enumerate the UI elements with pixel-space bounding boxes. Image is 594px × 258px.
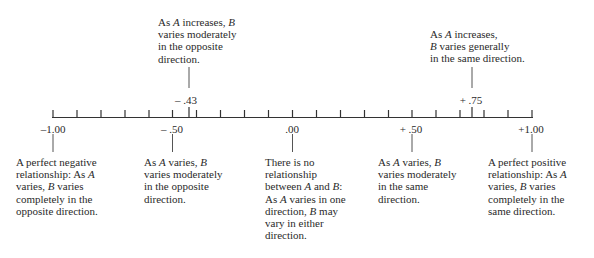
tick-label-p100: +1.00 <box>518 123 543 135</box>
annotation-line: As A increases, B <box>158 16 237 28</box>
annotation-line: There is no <box>265 156 346 168</box>
annotation-line: A perfect positive <box>488 156 567 168</box>
annotation-line: completely in the <box>488 193 567 205</box>
tick-label-z00: .00 <box>285 123 299 135</box>
annotation-line: between A and B: <box>265 180 346 192</box>
annotation-neg43-text: As A increases, Bvaries moderatelyin the… <box>158 16 237 65</box>
tick-label-m100: –1.00 <box>41 123 66 135</box>
annotation-line: varies moderately <box>144 168 223 180</box>
annotation-line: As A varies, B <box>144 156 223 168</box>
annotation-line: As A varies, B <box>378 156 457 168</box>
marker-label-pos75: + .75 <box>460 94 483 106</box>
annotation-p100-text: A perfect positiverelationship: As Avari… <box>488 156 567 217</box>
annotation-line: A perfect negative <box>16 156 98 168</box>
annotation-line: B varies generally <box>430 40 525 52</box>
annotation-line: opposite direction. <box>16 205 98 217</box>
annotation-line: same direction. <box>488 205 567 217</box>
tick-label-p50: + .50 <box>400 123 423 135</box>
annotation-z00-text: There is norelationshipbetween A and B:A… <box>265 156 346 241</box>
annotation-line: varies, B varies <box>16 180 98 192</box>
axis-ticks <box>53 110 532 118</box>
annotation-line: in the opposite <box>144 180 223 192</box>
annotation-line: in the same direction. <box>430 52 525 64</box>
tick-label-m50: – .50 <box>161 123 183 135</box>
annotation-line: As A increases, <box>430 28 525 40</box>
annotation-line: direction. <box>378 193 457 205</box>
annotation-m100-text: A perfect negativerelationship: As Avari… <box>16 156 98 217</box>
annotation-line: vary in either <box>265 217 346 229</box>
annotation-line: in the opposite <box>158 40 237 52</box>
annotation-line: varies moderately <box>378 168 457 180</box>
annotation-line: varies moderately <box>158 28 237 40</box>
annotation-line: relationship: As A <box>488 168 567 180</box>
annotation-m50-text: As A varies, Bvaries moderatelyin the op… <box>144 156 223 205</box>
annotation-line: in the same <box>378 180 457 192</box>
annotation-line: direction. <box>158 53 237 65</box>
annotation-line: direction. <box>144 193 223 205</box>
correlation-number-line-diagram: As A increases, Bvaries moderatelyin the… <box>0 0 594 258</box>
annotation-line: As A varies in one <box>265 193 346 205</box>
annotation-line: varies, B varies <box>488 180 567 192</box>
annotation-pos75-text: As A increases,B varies generallyin the … <box>430 28 525 65</box>
annotation-line: relationship <box>265 168 346 180</box>
annotation-line: relationship: As A <box>16 168 98 180</box>
annotation-line: completely in the <box>16 193 98 205</box>
annotation-p50-text: As A varies, Bvaries moderatelyin the sa… <box>378 156 457 205</box>
annotation-line: direction, B may <box>265 205 346 217</box>
annotation-line: direction. <box>265 229 346 241</box>
marker-label-neg43: – .43 <box>175 94 197 106</box>
